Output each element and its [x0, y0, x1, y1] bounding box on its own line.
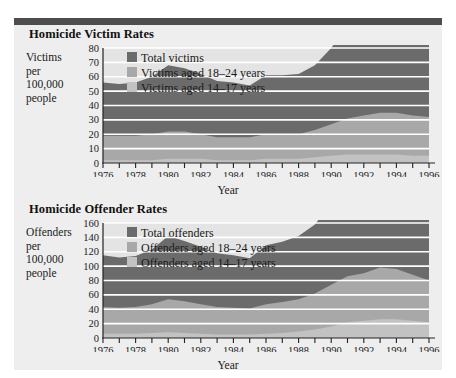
x-tick-label: 1988 [288, 345, 309, 352]
x-tick-label: 1980 [158, 345, 179, 352]
x-tick-label: 1982 [190, 170, 211, 177]
x-tick-label: 1978 [125, 345, 146, 352]
x-tick-label: 1976 [93, 345, 114, 352]
y-tick-label: 70 [89, 57, 100, 68]
x-tick-label: 1986 [256, 170, 277, 177]
x-tick-label: 1980 [158, 170, 179, 177]
legend-label: Victims aged 18–24 years [141, 66, 266, 80]
legend-swatch [127, 82, 137, 92]
x-tick-label: 1996 [419, 345, 440, 352]
x-tick-label: 1994 [386, 170, 408, 177]
legend-swatch [127, 242, 137, 252]
y-tick-label: 10 [89, 143, 100, 154]
x-tick-label: 1984 [223, 170, 245, 177]
charts-container: Homicide Victim Rates Victims per 100,00… [14, 18, 442, 370]
y-tick-label: 50 [89, 86, 100, 97]
x-tick-label: 1994 [386, 345, 408, 352]
x-tick-label: 1984 [223, 345, 245, 352]
x-tick-label: 1990 [321, 345, 342, 352]
y-tick-label: 20 [89, 318, 100, 329]
y-tick-label: 20 [89, 129, 100, 140]
legend-label: Offenders aged 14–17 years [141, 256, 276, 270]
chart-block-victim-rates: Homicide Victim Rates Victims per 100,00… [14, 27, 442, 202]
x-axis-title-victims: Year [14, 184, 442, 196]
x-tick-label: 1986 [256, 345, 277, 352]
y-tick-label: 40 [89, 304, 100, 315]
x-axis-title-offenders: Year [14, 359, 442, 371]
y-tick-label: 140 [83, 232, 99, 243]
legend-swatch [127, 257, 137, 267]
y-tick-label: 0 [94, 333, 99, 344]
legend-label: Total victims [141, 51, 204, 65]
y-tick-label: 80 [89, 275, 100, 286]
x-tick-label: 1976 [93, 170, 114, 177]
chart-svg-offender-rates: 0204060801001201401601976197819801982198… [14, 220, 442, 352]
x-tick-label: 1992 [353, 170, 374, 177]
y-tick-label: 60 [89, 71, 100, 82]
legend-swatch [127, 52, 137, 62]
y-tick-label: 40 [89, 100, 100, 111]
x-tick-label: 1982 [190, 345, 211, 352]
chart-block-offender-rates: Homicide Offender Rates Offenders per 10… [14, 202, 442, 370]
x-tick-label: 1988 [288, 170, 309, 177]
x-tick-label: 1996 [419, 170, 440, 177]
chart-title-victim-rates: Homicide Victim Rates [29, 27, 154, 42]
x-tick-label: 1978 [125, 170, 146, 177]
legend-swatch [127, 67, 137, 77]
legend-label: Offenders aged 18–24 years [141, 241, 276, 255]
y-tick-label: 160 [83, 220, 99, 229]
page-root: Homicide Victim Rates Victims per 100,00… [0, 0, 456, 378]
legend-label: Total offenders [141, 226, 214, 240]
y-tick-label: 0 [94, 158, 99, 169]
y-tick-label: 120 [83, 246, 99, 257]
y-tick-label: 100 [83, 261, 99, 272]
chart-svg-victim-rates: 0102030405060708019761978198019821984198… [14, 45, 442, 177]
chart-title-offender-rates: Homicide Offender Rates [29, 202, 167, 217]
legend-swatch [127, 227, 137, 237]
x-tick-label: 1990 [321, 170, 342, 177]
y-tick-label: 80 [89, 45, 100, 54]
y-tick-label: 30 [89, 114, 100, 125]
legend-label: Victims aged 14–17 years [141, 81, 266, 95]
x-tick-label: 1992 [353, 345, 374, 352]
y-tick-label: 60 [89, 289, 100, 300]
